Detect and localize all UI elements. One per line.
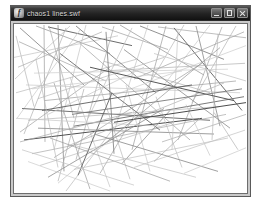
flash-player-icon-glyph: f	[14, 8, 24, 18]
art-line	[184, 148, 246, 174]
close-button[interactable]	[237, 8, 248, 18]
art-line	[106, 32, 114, 154]
art-line	[76, 26, 114, 160]
art-line	[102, 27, 168, 50]
flash-stage[interactable]	[13, 23, 248, 194]
art-line	[15, 26, 70, 79]
window-title: chaos1 lines.swf	[27, 9, 211, 18]
random-line-drawing	[14, 24, 247, 193]
art-line	[32, 71, 182, 89]
maximize-button[interactable]	[224, 8, 235, 18]
art-line	[172, 30, 178, 150]
art-line	[158, 27, 246, 38]
minimize-button[interactable]	[211, 8, 222, 18]
art-line	[134, 130, 245, 167]
flash-player-icon: f	[14, 8, 24, 18]
window-title-bar[interactable]: f chaos1 lines.swf	[11, 6, 250, 21]
art-line	[16, 118, 160, 126]
flash-player-window: f chaos1 lines.swf	[10, 5, 251, 197]
art-line	[48, 27, 132, 46]
art-line	[16, 36, 34, 107]
window-controls	[211, 8, 248, 18]
desktop-screenshot: f chaos1 lines.swf	[0, 0, 262, 208]
art-line	[42, 85, 192, 111]
art-line	[154, 118, 200, 161]
art-line	[186, 105, 210, 156]
